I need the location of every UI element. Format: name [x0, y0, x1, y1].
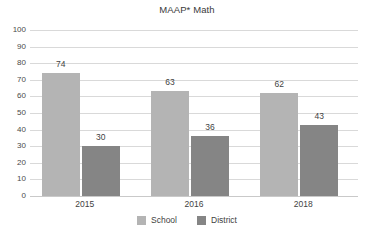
- x-axis-tick-label: 2016: [139, 199, 248, 210]
- bar-district-2015[interactable]: [82, 146, 120, 196]
- legend-swatch-school-icon: [137, 216, 146, 225]
- y-axis: 1009080706050403020100: [0, 30, 26, 196]
- bar-school-2016[interactable]: [151, 91, 189, 196]
- bar-chart: MAAP* Math 1009080706050403020100 743063…: [0, 0, 374, 237]
- y-axis-tick-label: 40: [0, 126, 26, 134]
- gridline: [30, 196, 358, 197]
- bar-school-2015[interactable]: [42, 73, 80, 196]
- chart-title: MAAP* Math: [0, 4, 374, 15]
- legend-label-district: District: [211, 216, 237, 225]
- y-axis-tick-label: 50: [0, 109, 26, 117]
- y-axis-tick-label: 10: [0, 175, 26, 183]
- gridline: [30, 30, 358, 31]
- bar-value-label: 30: [82, 133, 120, 142]
- bar-value-label: 43: [300, 112, 338, 121]
- bar-value-label: 63: [151, 78, 189, 87]
- y-axis-tick-label: 90: [0, 43, 26, 51]
- legend-label-school: School: [151, 216, 177, 225]
- y-axis-tick-label: 20: [0, 159, 26, 167]
- x-axis-tick-label: 2015: [30, 199, 139, 210]
- x-axis: 201520162018: [30, 199, 358, 213]
- bar-value-label: 62: [260, 80, 298, 89]
- bar-school-2018[interactable]: [260, 93, 298, 196]
- bar-value-label: 36: [191, 123, 229, 132]
- x-axis-tick-label: 2018: [249, 199, 358, 210]
- bar-district-2018[interactable]: [300, 125, 338, 196]
- chart-legend: School District: [0, 216, 374, 225]
- bar-district-2016[interactable]: [191, 136, 229, 196]
- bar-value-label: 74: [42, 60, 80, 69]
- y-axis-tick-label: 0: [0, 192, 26, 200]
- y-axis-tick-label: 100: [0, 26, 26, 34]
- legend-swatch-district-icon: [197, 216, 206, 225]
- plot-area: 743063366243: [30, 30, 358, 196]
- y-axis-tick-label: 80: [0, 59, 26, 67]
- y-axis-tick-label: 60: [0, 92, 26, 100]
- legend-item-district[interactable]: District: [197, 216, 237, 225]
- gridline: [30, 47, 358, 48]
- y-axis-tick-label: 30: [0, 142, 26, 150]
- y-axis-tick-label: 70: [0, 76, 26, 84]
- legend-item-school[interactable]: School: [137, 216, 177, 225]
